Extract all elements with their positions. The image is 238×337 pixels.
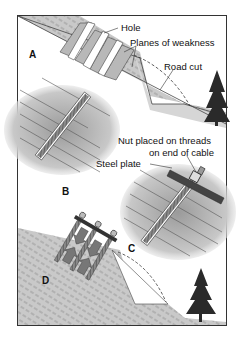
label-hole: Hole [121, 22, 141, 33]
label-planes-of-weakness: Planes of weakness [130, 37, 215, 48]
panel-label-d: D [42, 275, 49, 286]
label-steel-plate: Steel plate [96, 158, 141, 169]
panel-c [120, 164, 236, 260]
panel-label-a: A [29, 49, 36, 60]
label-nut-line1: Nut placed on threads [118, 135, 211, 146]
panel-label-b: B [62, 186, 69, 197]
label-nut-line2: on end of cable [149, 147, 214, 158]
label-road-cut: Road cut [164, 61, 202, 72]
panel-label-c: C [128, 243, 135, 254]
